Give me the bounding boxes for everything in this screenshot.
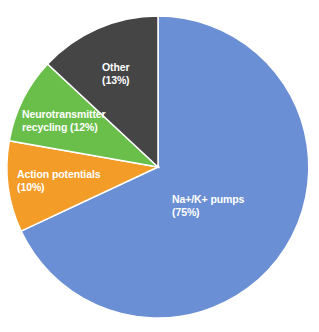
pie-chart-canvas — [0, 0, 319, 332]
pie-chart-figure: Na+/K+ pumps (75%) Other (13%) Neurotran… — [0, 0, 319, 332]
